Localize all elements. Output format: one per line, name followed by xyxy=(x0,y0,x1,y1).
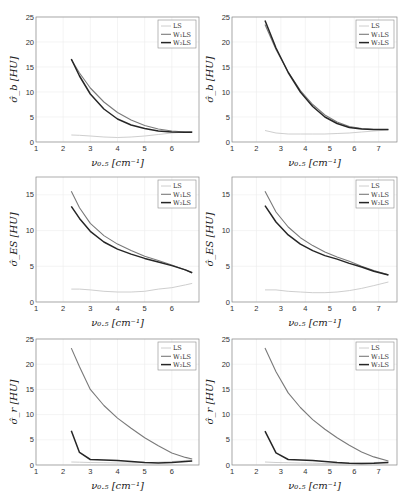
x-tick-label: 6 xyxy=(352,304,356,313)
x-tick-label: 4 xyxy=(303,144,307,153)
x-tick-label: 3 xyxy=(88,304,92,313)
subplot-row3-left: 1234560510152025ν₀.₅ [cm⁻¹]σ̂_r [HU]LSW₁… xyxy=(8,335,199,492)
y-tick-label: 20 xyxy=(222,38,230,47)
x-axis-label: ν₀.₅ [cm⁻¹] xyxy=(91,317,144,328)
series-line-ls xyxy=(265,282,388,293)
y-tick-label: 0 xyxy=(30,138,34,147)
legend-label: W₁LS xyxy=(173,31,191,39)
legend-label: W₁LS xyxy=(173,353,191,361)
subplot-row2-right: 1234567051015ν₀.₅ [cm⁻¹]σ̂_ES [HU]LSW₁LS… xyxy=(204,177,397,328)
y-tick-label: 20 xyxy=(26,360,34,369)
legend: LSW₁LSW₂LS xyxy=(356,20,394,48)
y-tick-label: 20 xyxy=(222,360,230,369)
subplot-row2-left: 123456051015ν₀.₅ [cm⁻¹]σ̂_ES [HU]LSW₁LSW… xyxy=(8,177,199,328)
y-tick-label: 5 xyxy=(226,262,230,271)
series-line-w2ls xyxy=(71,431,192,463)
x-tick-label: 6 xyxy=(170,144,174,153)
x-tick-label: 7 xyxy=(377,304,381,313)
x-tick-label: 1 xyxy=(230,144,234,153)
y-axis-label: σ̂_r [HU] xyxy=(204,380,216,425)
x-tick-label: 1 xyxy=(230,304,234,313)
y-tick-label: 25 xyxy=(222,13,230,22)
tick-labels: 1234560510152025 xyxy=(26,13,174,154)
y-tick-label: 25 xyxy=(26,13,34,22)
legend-label: LS xyxy=(371,22,380,30)
legend-label: W₂LS xyxy=(371,361,389,369)
legend-label: LS xyxy=(173,22,182,30)
y-tick-label: 5 xyxy=(30,113,34,122)
x-tick-label: 4 xyxy=(115,144,119,153)
y-tick-label: 0 xyxy=(226,138,230,147)
x-tick-label: 2 xyxy=(61,144,65,153)
x-tick-label: 6 xyxy=(352,467,356,476)
series-line-w2ls xyxy=(71,206,192,272)
y-tick-label: 5 xyxy=(226,435,230,444)
series-line-w2ls xyxy=(265,206,388,275)
series-line-w1ls xyxy=(71,60,192,133)
legend-label: LS xyxy=(173,344,182,352)
legend: LSW₁LSW₂LS xyxy=(158,20,196,48)
legend-label: W₁LS xyxy=(173,191,191,199)
y-tick-label: 5 xyxy=(30,262,34,271)
y-tick-label: 10 xyxy=(26,88,34,97)
legend-label: W₂LS xyxy=(173,39,191,47)
tick-labels: 1234567051015 xyxy=(222,190,381,313)
y-tick-label: 10 xyxy=(222,226,230,235)
x-tick-label: 3 xyxy=(88,467,92,476)
y-tick-label: 5 xyxy=(30,435,34,444)
x-tick-label: 2 xyxy=(61,304,65,313)
x-tick-label: 7 xyxy=(377,144,381,153)
subplot-row1-right: 12345670510152025ν₀.₅ [cm⁻¹]σ̂_b [HU]LSW… xyxy=(204,13,397,169)
series-line-ls xyxy=(71,283,192,292)
y-tick-label: 15 xyxy=(222,63,230,72)
series-line-w2ls xyxy=(71,59,192,132)
x-tick-label: 1 xyxy=(34,304,38,313)
y-axis-label: σ̂_ES [HU] xyxy=(204,212,216,266)
y-axis-label: σ̂_ES [HU] xyxy=(8,212,20,266)
x-tick-label: 4 xyxy=(115,467,119,476)
y-tick-label: 0 xyxy=(226,298,230,307)
legend-label: LS xyxy=(371,344,380,352)
y-tick-label: 25 xyxy=(222,335,230,344)
legend-label: LS xyxy=(371,182,380,190)
y-tick-label: 10 xyxy=(222,410,230,419)
x-tick-label: 5 xyxy=(143,144,147,153)
y-tick-label: 10 xyxy=(26,226,34,235)
y-tick-label: 10 xyxy=(222,88,230,97)
y-tick-label: 15 xyxy=(222,385,230,394)
series-line-ls xyxy=(265,130,388,134)
x-tick-label: 1 xyxy=(34,467,38,476)
x-tick-label: 3 xyxy=(88,144,92,153)
legend-label: W₂LS xyxy=(371,199,389,207)
legend: LSW₁LSW₂LS xyxy=(356,180,394,208)
legend-label: W₁LS xyxy=(371,353,389,361)
legend-label: W₂LS xyxy=(173,361,191,369)
x-tick-label: 3 xyxy=(279,467,283,476)
x-tick-label: 1 xyxy=(230,467,234,476)
legend: LSW₁LSW₂LS xyxy=(356,342,394,370)
y-tick-label: 25 xyxy=(26,335,34,344)
subplot-row1-left: 1234560510152025ν₀.₅ [cm⁻¹]σ̂_b [HU]LSW₁… xyxy=(8,13,199,169)
x-tick-label: 2 xyxy=(254,467,258,476)
x-tick-label: 4 xyxy=(303,304,307,313)
x-axis-label: ν₀.₅ [cm⁻¹] xyxy=(288,157,341,168)
x-tick-label: 3 xyxy=(279,144,283,153)
legend-label: W₂LS xyxy=(173,199,191,207)
legend-label: W₂LS xyxy=(371,39,389,47)
legend-label: W₁LS xyxy=(371,191,389,199)
y-tick-label: 0 xyxy=(30,461,34,470)
x-tick-label: 6 xyxy=(170,304,174,313)
legend: LSW₁LSW₂LS xyxy=(158,342,196,370)
tick-labels: 123456051015 xyxy=(26,190,174,313)
x-tick-label: 5 xyxy=(328,467,332,476)
y-tick-label: 15 xyxy=(26,63,34,72)
legend: LSW₁LSW₂LS xyxy=(158,180,196,208)
x-tick-label: 5 xyxy=(328,144,332,153)
y-tick-label: 15 xyxy=(222,190,230,199)
legend-label: W₁LS xyxy=(371,31,389,39)
legend-label: LS xyxy=(173,182,182,190)
x-tick-label: 1 xyxy=(34,144,38,153)
x-tick-label: 4 xyxy=(115,304,119,313)
x-tick-label: 6 xyxy=(352,144,356,153)
y-tick-label: 5 xyxy=(226,113,230,122)
